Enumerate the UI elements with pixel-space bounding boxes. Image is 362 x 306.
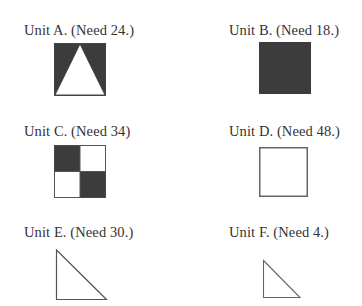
unit-d-label: Unit D. (Need 48.) — [229, 124, 340, 139]
unit-a-shape — [54, 43, 106, 96]
unit-c-shape — [54, 145, 106, 198]
unit-e-label: Unit E. (Need 30.) — [24, 225, 133, 240]
unit-e-shape — [55, 249, 108, 301]
unit-a-label: Unit A. (Need 24.) — [24, 23, 134, 38]
unit-d-shape — [259, 147, 308, 197]
unit-c-label: Unit C. (Need 34) — [24, 124, 130, 139]
unit-b-shape — [259, 42, 311, 94]
unit-f-shape — [262, 259, 302, 299]
unit-b-label: Unit B. (Need 18.) — [229, 23, 339, 38]
unit-f-label: Unit F. (Need 4.) — [229, 225, 329, 240]
